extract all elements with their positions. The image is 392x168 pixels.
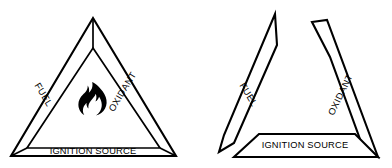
assembled-ignition-source-label: IGNITION SOURCE xyxy=(50,146,137,156)
exploded-ignition-source-label: IGNITION SOURCE xyxy=(262,140,349,150)
assembled-triangle-panel: FUEL OXIDANT IGNITION SOURCE xyxy=(11,18,176,156)
exploded-triangle-panel: FUEL OXIDANT IGNITION SOURCE xyxy=(219,14,378,157)
fire-triangle-figure: FUEL OXIDANT IGNITION SOURCE FUEL OXIDAN… xyxy=(0,0,392,168)
fire-triangle-svg: FUEL OXIDANT IGNITION SOURCE FUEL OXIDAN… xyxy=(0,0,392,168)
